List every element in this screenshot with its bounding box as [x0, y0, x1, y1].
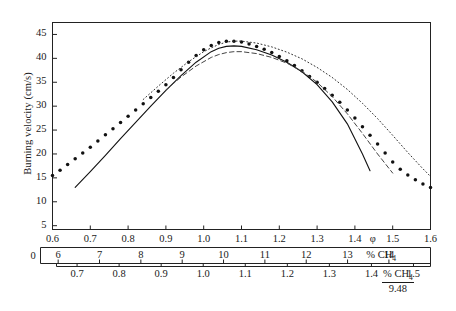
data-point-marker [51, 174, 55, 178]
data-point-marker [338, 101, 342, 105]
x-axis-title-ch4: % CH4 [366, 249, 396, 263]
x-tick-label-frac: 1.2 [267, 268, 307, 279]
data-point-marker [81, 151, 85, 155]
frac-denominator: 9.48 [382, 282, 414, 294]
x-tick-label-ch4: 8 [121, 249, 161, 260]
x-tick-label-frac: 1.1 [225, 268, 265, 279]
x-tick-label-ch4: 6 [38, 249, 78, 260]
plot-frame [53, 23, 431, 230]
data-point-marker [217, 41, 221, 45]
x-tick-label-ch4: 11 [245, 249, 285, 260]
series-dashed-model [166, 52, 393, 173]
data-point-marker [66, 163, 70, 167]
y-tick-label: 5 [25, 219, 47, 230]
data-point-marker [353, 116, 357, 120]
data-point-marker [376, 142, 380, 146]
data-point-marker [383, 151, 387, 155]
data-point-marker [399, 168, 403, 172]
data-point-marker [210, 44, 214, 48]
frac-numerator: % CH4 [382, 268, 414, 282]
data-point-marker [164, 83, 168, 87]
series-experimental-points [51, 39, 433, 189]
data-point-marker [414, 178, 418, 182]
data-point-marker [58, 168, 62, 172]
x-tick-label-frac: 1.3 [309, 268, 349, 279]
y-tick-label: 45 [25, 27, 47, 38]
x-axis-title-frac: % CH49.48 [382, 268, 414, 294]
data-point-marker [141, 102, 145, 106]
figure-container: Burning velocity (cm/s) 5101520253035404… [0, 0, 456, 311]
x-tick-label-phi: 0.6 [33, 233, 73, 244]
data-point-marker [262, 48, 266, 52]
x-tick-label-ch4: 13 [328, 249, 368, 260]
data-point-marker [429, 186, 433, 190]
chart-svg [0, 0, 456, 311]
y-tick-label: 15 [25, 171, 47, 182]
x-tick-label-ch4: 9 [162, 249, 202, 260]
x-tick-label-phi: 0.8 [108, 233, 148, 244]
data-point-marker [255, 45, 259, 49]
x-tick-label-frac: 0.8 [99, 268, 139, 279]
x-tick-label-phi: 0.9 [146, 233, 186, 244]
x-tick-label-frac: 0.9 [141, 268, 181, 279]
data-point-marker [172, 76, 176, 80]
data-point-marker [361, 125, 365, 129]
x-tick-label-phi: 1.3 [297, 233, 337, 244]
x-tick-label-phi: 1.2 [259, 233, 299, 244]
data-point-marker [157, 90, 161, 94]
data-point-marker [96, 139, 100, 143]
x-tick-label-ch4: 10 [204, 249, 244, 260]
x-tick-label-phi: 1.1 [222, 233, 262, 244]
y-tick-label: 40 [25, 51, 47, 62]
data-point-marker [104, 133, 108, 137]
y-tick-label: 20 [25, 147, 47, 158]
data-point-marker [391, 160, 395, 164]
x-tick-label-ch4: 7 [80, 249, 120, 260]
y-tick-label: 30 [25, 99, 47, 110]
data-point-marker [119, 121, 123, 125]
data-point-marker [134, 108, 138, 112]
x-tick-label-ch4: 12 [286, 249, 326, 260]
data-point-marker [73, 157, 77, 161]
data-point-marker [111, 127, 115, 131]
data-point-marker [346, 108, 350, 112]
x-tick-label-frac: 0.7 [57, 268, 97, 279]
x-tick-label-frac: 1.0 [183, 268, 223, 279]
data-point-marker [368, 134, 372, 138]
x-tick-label-phi: 1.0 [184, 233, 224, 244]
x-tick-label-phi: 1.5 [373, 233, 413, 244]
x-tick-label-phi: 1.6 [411, 233, 451, 244]
y-tick-label: 10 [25, 195, 47, 206]
data-point-marker [270, 51, 274, 55]
data-point-marker [89, 146, 93, 150]
series-solid-model [75, 46, 370, 188]
y-tick-label: 25 [25, 123, 47, 134]
data-point-marker [126, 114, 130, 118]
x-axis-title-phi: φ [370, 233, 376, 244]
data-point-marker [202, 48, 206, 52]
axis2-zero-label: 0 [31, 250, 36, 261]
data-point-marker [247, 42, 251, 46]
data-point-marker [406, 173, 410, 177]
data-point-marker [149, 96, 153, 100]
y-tick-label: 35 [25, 75, 47, 86]
data-point-marker [421, 182, 425, 186]
x-tick-label-phi: 0.7 [70, 233, 110, 244]
